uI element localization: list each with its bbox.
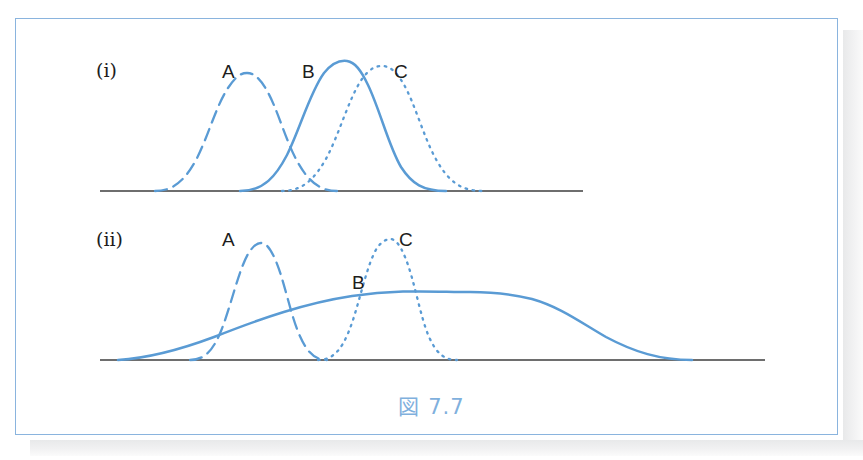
panel-i-label: (i) bbox=[96, 59, 117, 81]
panel-i-label-a: A bbox=[222, 61, 235, 83]
panel-i-label-b: B bbox=[302, 61, 315, 83]
figure-page: (i) (ii) A B C A C B 図 7.7 bbox=[0, 0, 863, 460]
page-shadow-bottom bbox=[30, 440, 863, 456]
panel-ii-label-b: B bbox=[352, 272, 365, 294]
figure-frame bbox=[15, 18, 838, 435]
panel-ii-label-c: C bbox=[399, 229, 413, 251]
figure-caption: 図 7.7 bbox=[0, 390, 863, 420]
panel-i-label-c: C bbox=[394, 61, 408, 83]
panel-ii-label: (ii) bbox=[96, 228, 123, 250]
page-shadow-right bbox=[843, 30, 863, 450]
panel-ii-label-a: A bbox=[222, 229, 235, 251]
